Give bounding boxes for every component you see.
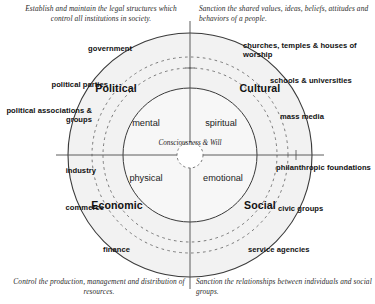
institution-label-political-associations-groups: political associations & groups — [0, 106, 92, 124]
caption-bottom-right: Sanction the relationships between indiv… — [196, 277, 372, 296]
institution-label-civic-groups: civic groups — [278, 204, 375, 213]
institution-label-mass-media: mass media — [280, 112, 375, 121]
quadrant-label-political: Political — [84, 82, 148, 94]
institution-label-service-agencies: service agencies — [248, 245, 375, 254]
inner-label-emotional: emotional — [190, 173, 256, 183]
caption-bottom-left: Control the production, management and d… — [10, 277, 188, 296]
institution-label-industry: industry — [0, 166, 96, 175]
caption-top-right: Sanction the shared values, ideas, belie… — [199, 4, 371, 23]
quadrant-label-social: Social — [230, 199, 290, 211]
diagram-canvas: Establish and maintain the legal structu… — [0, 0, 375, 304]
inner-label-spiritual: spiritual — [190, 118, 252, 128]
inner-label-physical: physical — [116, 173, 176, 183]
institution-label-finance: finance — [0, 245, 130, 254]
institution-label-churches-temples-houses-of-worship: churches, temples & houses of worship — [243, 41, 375, 59]
quadrant-label-economic: Economic — [82, 199, 152, 211]
institution-label-philanthropic-foundations: philanthropic foundations — [276, 163, 375, 172]
caption-top-left: Establish and maintain the legal structu… — [16, 4, 186, 23]
inner-label-mental: mental — [118, 118, 174, 128]
quadrant-label-cultural: Cultural — [228, 82, 292, 94]
institution-label-government: government — [0, 44, 132, 53]
core-label-consciousness-and-will: Consciousness & Will — [150, 139, 230, 147]
